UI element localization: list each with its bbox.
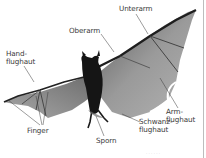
label-sporn-text: Sporn — [96, 137, 116, 145]
label-unterarm: Unterarm — [119, 5, 152, 13]
right-wing-membrane — [92, 10, 196, 118]
frame-border — [203, 0, 204, 158]
label-schwanzflughaut: Schwanz- flughaut — [139, 118, 172, 134]
image-credit: · · · · · · — [146, 151, 160, 156]
label-handflughaut: Hand- flughaut — [6, 50, 35, 66]
label-oberarm-text: Oberarm — [69, 27, 100, 35]
label-oberarm: Oberarm — [69, 27, 100, 35]
label-handflughaut-line2: flughaut — [6, 58, 35, 66]
label-sporn: Sporn — [96, 137, 116, 145]
label-finger-text: Finger — [27, 127, 49, 135]
label-schwanzflughaut-line2: flughaut — [139, 126, 172, 134]
bat-anatomy-diagram: Oberarm Unterarm Hand- flughaut Arm- flu… — [0, 0, 206, 158]
label-finger: Finger — [27, 127, 49, 135]
label-unterarm-text: Unterarm — [119, 5, 152, 13]
